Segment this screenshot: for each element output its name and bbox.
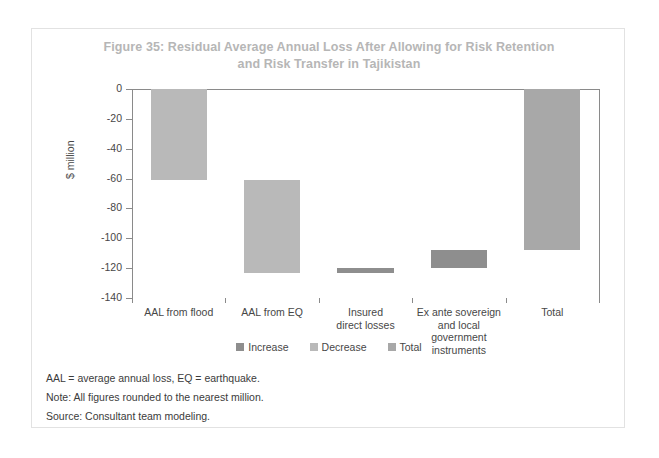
- x-tick-mark: [412, 298, 413, 303]
- y-tick-label: -80: [107, 201, 122, 213]
- x-tick-mark: [132, 298, 133, 303]
- y-tick-mark: [126, 179, 133, 180]
- x-axis-category-label: AAL from flood: [132, 306, 225, 319]
- y-tick-label: 0: [116, 82, 122, 94]
- chart-legend: IncreaseDecreaseTotal: [32, 341, 626, 353]
- x-label-line: and local government: [412, 319, 505, 344]
- y-tick-label: -40: [107, 142, 122, 154]
- y-tick-label: -100: [101, 231, 122, 243]
- y-axis-label: $ million: [64, 140, 76, 179]
- legend-swatch-icon: [388, 343, 396, 351]
- y-axis-tick: -20: [126, 119, 133, 120]
- figure-frame: Figure 35: Residual Average Annual Loss …: [31, 28, 625, 428]
- y-axis-tick: -80: [126, 208, 133, 209]
- x-tick-mark: [506, 298, 507, 303]
- x-axis-category-label: AAL from EQ: [225, 306, 318, 319]
- figure-note-line: Source: Consultant team modeling.: [46, 407, 606, 426]
- bar-decrease-0: [151, 89, 207, 180]
- x-axis-category-label: Total: [506, 306, 599, 319]
- legend-item-total: Total: [388, 341, 422, 353]
- y-axis-tick: -60: [126, 179, 133, 180]
- figure-note-line: AAL = average annual loss, EQ = earthqua…: [46, 369, 606, 388]
- legend-label: Total: [400, 341, 422, 353]
- legend-item-increase: Increase: [236, 341, 288, 353]
- x-label-line: AAL from EQ: [225, 306, 318, 319]
- x-axis-category-label: Insureddirect losses: [319, 306, 412, 331]
- x-label-line: Insured: [319, 306, 412, 319]
- y-tick-mark: [126, 89, 133, 90]
- bar-increase-2: [337, 268, 393, 272]
- legend-swatch-icon: [236, 343, 244, 351]
- y-axis-tick: 0: [126, 89, 133, 90]
- x-label-line: Ex ante sovereign: [412, 306, 505, 319]
- bar-increase-3: [431, 250, 487, 268]
- y-tick-mark: [126, 149, 133, 150]
- y-tick-mark: [126, 119, 133, 120]
- y-axis-tick: -40: [126, 149, 133, 150]
- x-label-line: direct losses: [319, 319, 412, 332]
- y-tick-label: -60: [107, 172, 122, 184]
- legend-label: Decrease: [322, 341, 367, 353]
- x-label-line: Total: [506, 306, 599, 319]
- y-tick-label: -140: [101, 291, 122, 303]
- x-label-line: AAL from flood: [132, 306, 225, 319]
- bar-total-4: [524, 89, 580, 250]
- legend-label: Increase: [248, 341, 288, 353]
- figure-note-line: Note: All figures rounded to the nearest…: [46, 388, 606, 407]
- legend-swatch-icon: [310, 343, 318, 351]
- y-axis-tick: -100: [126, 238, 133, 239]
- y-tick-label: -120: [101, 261, 122, 273]
- y-tick-mark: [126, 238, 133, 239]
- x-tick-mark: [599, 298, 600, 303]
- bar-decrease-1: [244, 180, 300, 273]
- figure-notes: AAL = average annual loss, EQ = earthqua…: [46, 369, 606, 426]
- x-tick-mark: [225, 298, 226, 303]
- y-tick-mark: [126, 268, 133, 269]
- y-axis-tick: -120: [126, 268, 133, 269]
- legend-item-decrease: Decrease: [310, 341, 367, 353]
- y-tick-mark: [126, 208, 133, 209]
- y-tick-label: -20: [107, 112, 122, 124]
- x-tick-mark: [319, 298, 320, 303]
